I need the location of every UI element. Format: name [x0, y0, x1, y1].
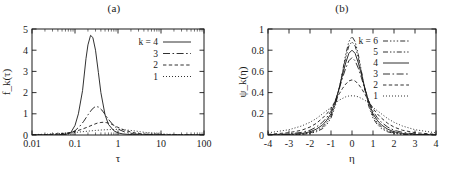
- legend-label-k-4: 4: [373, 58, 378, 68]
- x-tick-label: 1: [371, 138, 376, 149]
- curve-k-4: [268, 50, 436, 135]
- y-tick-label: 1: [23, 108, 28, 119]
- y-tick-label: 2: [23, 87, 28, 98]
- y-tick-label: 3: [23, 66, 28, 77]
- x-tick-label: -4: [264, 138, 272, 149]
- legend-label-k-2: 2: [153, 60, 158, 70]
- y-tick-label: 0: [259, 130, 264, 141]
- plot-frame: [268, 29, 436, 135]
- legend-label-k-3: 3: [153, 49, 158, 59]
- y-tick-label: 0.4: [252, 87, 265, 98]
- y-tick-label: 1: [259, 24, 264, 35]
- curve-k-4: [32, 35, 204, 135]
- legend-label-k-5: 5: [373, 47, 378, 57]
- x-tick-label: -2: [306, 138, 314, 149]
- x-tick-label: -3: [285, 138, 293, 149]
- legend-label-k-1: 1: [153, 72, 158, 82]
- panel-b-plot: -4-3-2-10123400.20.40.60.81ηψ_k(η)k = 65…: [228, 0, 456, 178]
- legend-label-k-4: k = 4: [138, 37, 158, 47]
- x-tick-label: 3: [413, 138, 418, 149]
- panel-a: (a) 0.010.1110100012345τf_k(τ)k = 4321: [0, 0, 228, 178]
- x-tick-label: 100: [197, 138, 212, 149]
- legend-label-k-1: 1: [373, 91, 378, 101]
- curve-k-2: [268, 80, 436, 134]
- curve-k-5: [268, 42, 436, 135]
- figure-container: (a) 0.010.1110100012345τf_k(τ)k = 4321 (…: [0, 0, 456, 178]
- y-tick-label: 0: [23, 130, 28, 141]
- legend-label-k-3: 3: [373, 69, 378, 79]
- panel-b: (b) -4-3-2-10123400.20.40.60.81ηψ_k(η)k …: [228, 0, 456, 178]
- y-axis-title: f_k(τ): [0, 68, 13, 95]
- x-tick-label: 4: [434, 138, 439, 149]
- y-axis-title: ψ_k(η): [236, 66, 249, 97]
- x-tick-label: 1: [116, 138, 121, 149]
- x-tick-label: 0: [350, 138, 355, 149]
- curves-group: [32, 35, 204, 135]
- curves-group: [268, 36, 436, 135]
- panel-a-plot: 0.010.1110100012345τf_k(τ)k = 4321: [0, 0, 228, 178]
- x-tick-label: -1: [327, 138, 335, 149]
- y-tick-label: 5: [23, 24, 28, 35]
- x-tick-label: 0.1: [69, 138, 82, 149]
- y-tick-label: 4: [23, 45, 28, 56]
- y-tick-label: 0.6: [252, 66, 265, 77]
- legend-label-k-6: k = 6: [358, 36, 378, 46]
- x-axis-title: τ: [116, 152, 121, 164]
- plot-frame: [32, 29, 204, 135]
- y-tick-label: 0.2: [252, 108, 265, 119]
- x-tick-label: 10: [156, 138, 166, 149]
- x-tick-label: 2: [392, 138, 397, 149]
- y-tick-label: 0.8: [252, 45, 265, 56]
- curve-k-6: [268, 36, 436, 135]
- x-axis-title: η: [349, 152, 355, 164]
- curve-k-1: [268, 96, 436, 133]
- legend-label-k-2: 2: [373, 80, 378, 90]
